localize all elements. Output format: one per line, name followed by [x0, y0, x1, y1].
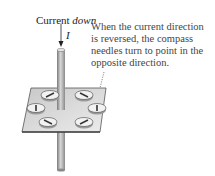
compass-5	[39, 118, 57, 129]
current-arrow	[59, 24, 64, 47]
compass-2	[75, 91, 93, 102]
caption-leader-line	[100, 72, 104, 88]
current-symbol: I	[66, 29, 70, 41]
current-label: Current down	[36, 14, 96, 26]
compass-3	[27, 104, 45, 115]
wire-rod-upper	[57, 50, 65, 110]
caption-text: When the current direction is reversed, …	[91, 21, 211, 69]
current-label-prefix: Current	[36, 14, 72, 26]
compass-4	[88, 104, 106, 115]
compass-1	[41, 91, 59, 102]
compass-6	[75, 118, 93, 129]
